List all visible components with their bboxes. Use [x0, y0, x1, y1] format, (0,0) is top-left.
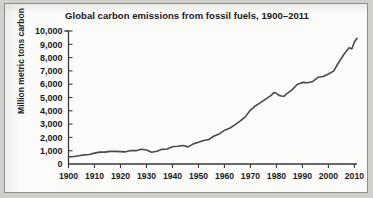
y-axis-tick-label: 2,000 [40, 133, 63, 143]
x-axis-tick-label: 1960 [215, 171, 234, 181]
x-axis-tick-label: 1910 [85, 171, 104, 181]
x-axis-tick-labels: 1900191019201930194019501960197019801990… [59, 171, 364, 181]
y-axis-tick-label: 10,000 [35, 26, 63, 36]
y-axis-tick-label: 0 [57, 159, 62, 169]
emissions-line-series [69, 38, 358, 157]
x-axis-tick-label: 1950 [189, 171, 208, 181]
x-axis-tick-label: 1970 [241, 171, 260, 181]
y-axis-tick-label: 6,000 [40, 79, 63, 89]
y-axis-tick-label: 9,000 [40, 40, 63, 50]
x-axis-tick-label: 2010 [345, 171, 364, 181]
x-axis-tick-label: 2000 [319, 171, 338, 181]
plot-area: 01,0002,0003,0004,0005,0006,0007,0008,00… [5, 4, 368, 193]
x-axis-tick-label: 1920 [111, 171, 130, 181]
y-axis-tick-label: 7,000 [40, 66, 63, 76]
x-axis-tick-label: 1900 [59, 171, 78, 181]
y-axis-tick-labels: 01,0002,0003,0004,0005,0006,0007,0008,00… [35, 26, 63, 169]
y-axis-tick-label: 5,000 [40, 93, 63, 103]
y-axis-tick-label: 8,000 [40, 53, 63, 63]
x-axis-tick-label: 1990 [293, 171, 312, 181]
x-axis-tick-label: 1940 [163, 171, 182, 181]
x-axis-tick-label: 1980 [267, 171, 286, 181]
y-axis-tick-label: 1,000 [40, 146, 63, 156]
y-axis-tick-label: 4,000 [40, 106, 63, 116]
chart-figure: Global carbon emissions from fossil fuel… [4, 3, 368, 193]
x-axis-tick-label: 1930 [137, 171, 156, 181]
chart-axes [65, 31, 358, 164]
y-axis-tick-label: 3,000 [40, 119, 63, 129]
